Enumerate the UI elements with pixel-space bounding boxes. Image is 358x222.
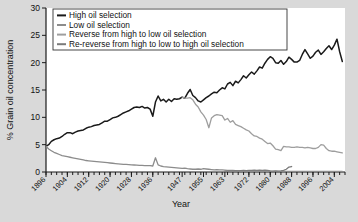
y-tick-label: 20: [31, 58, 41, 68]
y-tick-label: 5: [35, 140, 40, 150]
legend-label-4: Re-reverse from high to low to high oil …: [69, 39, 244, 49]
x-axis-title: Year: [172, 199, 190, 209]
y-axis-title: % Grain oil concentration: [5, 40, 15, 141]
y-tick-label: 25: [31, 30, 41, 40]
chart-legend[interactable]: High oil selectionLow oil selectionRever…: [53, 9, 287, 50]
chart-svg: 051015202530 189619041912192019281936194…: [0, 0, 358, 222]
figure-container: 051015202530 189619041912192019281936194…: [0, 0, 358, 222]
legend-label-2: Low oil selection: [69, 20, 130, 30]
y-tick-label: 30: [31, 3, 41, 13]
y-tick-label: 10: [31, 112, 41, 122]
legend-label-1: High oil selection: [69, 10, 132, 20]
y-tick-label: 15: [31, 85, 41, 95]
legend-label-3: Reverse from high to low oil selection: [69, 29, 207, 39]
